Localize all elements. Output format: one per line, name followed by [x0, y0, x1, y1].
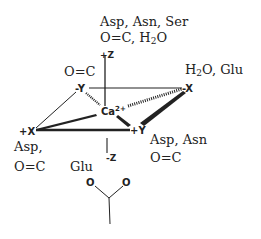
axis-label-plus-z: +Z — [100, 50, 114, 61]
axis-label-plus-y: +Y — [130, 125, 146, 136]
carboxylate-bond-right — [109, 186, 123, 198]
carboxylate-oxygen-left: O — [86, 177, 95, 188]
bond-ca-minus-x-hashed — [128, 89, 182, 106]
label-minus-x-ligands: H2O, Glu — [185, 62, 243, 77]
label-plus-x-line2: O=C — [14, 159, 46, 174]
label-plus-y-line1: Asp, Asn — [150, 132, 207, 147]
label-plus-y-line2: O=C — [150, 150, 182, 165]
label-minus-z-ligand: Glu — [70, 159, 93, 174]
label-minus-x-prefix: H — [185, 62, 196, 77]
carboxylate-stem — [109, 198, 110, 224]
carboxylate-bond-left — [95, 186, 109, 198]
label-top-ligands-line1: Asp, Asn, Ser — [100, 14, 188, 29]
label-minus-y-ligand: O=C — [64, 64, 96, 79]
label-top-prefix: O=C, H — [100, 30, 151, 45]
label-minus-x-suffix: O, Glu — [202, 62, 243, 77]
axis-label-minus-y: -Y — [75, 83, 85, 94]
edge-minus-x-plus-y — [140, 91, 186, 126]
axis-label-minus-x: -X — [182, 83, 193, 94]
ion-charge: 2+ — [115, 105, 126, 113]
axis-label-plus-x: +X — [19, 126, 35, 137]
carboxylate-oxygen-right: O — [122, 177, 131, 188]
label-plus-x-line1: Asp, — [14, 139, 43, 154]
label-top-ligands-line2: O=C, H2O — [100, 30, 167, 45]
ion-symbol: Ca — [101, 106, 115, 117]
calcium-ion-label: Ca2+ — [101, 106, 126, 117]
ca-coordination-diagram: Asp, Asn, Ser O=C, H2O +Z -Y -X +X +Y -Z… — [0, 0, 261, 239]
bond-ca-minus-y-hashed — [86, 93, 100, 105]
bond-ca-plus-x — [36, 114, 97, 131]
axis-label-minus-z: -Z — [106, 153, 116, 164]
label-top-suffix: O — [156, 30, 167, 45]
